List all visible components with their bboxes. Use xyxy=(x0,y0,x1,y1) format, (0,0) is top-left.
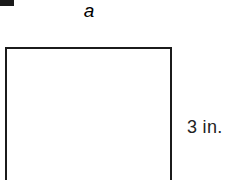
geometry-figure: a 3 in. xyxy=(0,0,238,180)
rectangle-width-label: a xyxy=(0,0,178,22)
rectangle-shape xyxy=(5,47,172,180)
scan-artifact-mark xyxy=(0,0,14,6)
rectangle-height-label: 3 in. xyxy=(187,118,223,136)
